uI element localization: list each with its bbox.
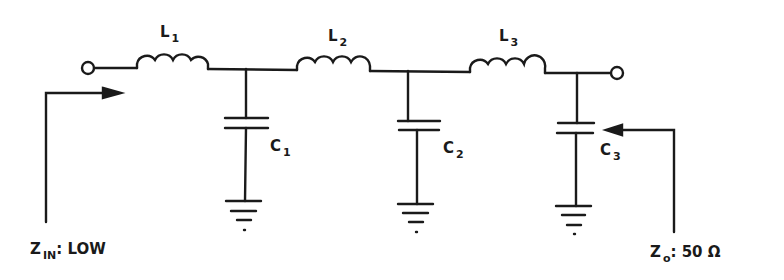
label-text: L xyxy=(160,23,170,41)
ground-icon xyxy=(226,201,261,230)
label-l3: L3 xyxy=(499,28,518,44)
label-text: C xyxy=(443,139,454,157)
label-subscript: 3 xyxy=(511,36,519,49)
ground-icon xyxy=(398,204,433,232)
inductor-l2 xyxy=(297,56,370,71)
capacitor-c1 xyxy=(225,69,268,201)
input-impedance-label: ZIN: LOW xyxy=(30,241,106,257)
label-text: L xyxy=(328,27,338,45)
output-terminal xyxy=(611,67,623,79)
label-c2: C2 xyxy=(443,140,464,156)
label-text: L xyxy=(499,27,509,45)
ground-icon xyxy=(556,206,591,234)
label-c3: C3 xyxy=(600,142,621,158)
label-subscript: 2 xyxy=(340,36,348,49)
label-c1: C1 xyxy=(270,138,291,154)
lc-filter-schematic xyxy=(0,0,784,280)
label-value: : LOW xyxy=(56,240,106,258)
label-text: Z xyxy=(30,240,41,258)
label-text: C xyxy=(270,137,281,155)
label-subscript: 1 xyxy=(283,146,291,159)
label-subscript: 1 xyxy=(172,32,180,45)
label-text: C xyxy=(600,141,611,159)
label-l2: L2 xyxy=(328,28,347,44)
capacitor-c3 xyxy=(557,73,594,206)
wire xyxy=(370,71,470,72)
label-l1: L1 xyxy=(160,24,179,40)
label-value: : 50 Ω xyxy=(670,243,720,261)
wire xyxy=(208,69,297,70)
label-subscript: 2 xyxy=(456,148,464,161)
capacitor-c2 xyxy=(398,71,440,204)
input-arrow-icon xyxy=(46,88,121,222)
label-text: Z xyxy=(650,243,661,261)
label-subscript: IN xyxy=(43,249,56,262)
label-subscript: o xyxy=(663,252,671,265)
inductor-l1 xyxy=(137,54,208,69)
label-subscript: 3 xyxy=(613,150,621,163)
input-terminal xyxy=(82,62,94,74)
inductor-l3 xyxy=(470,55,545,73)
output-impedance-label: Zo: 50 Ω xyxy=(650,244,721,260)
